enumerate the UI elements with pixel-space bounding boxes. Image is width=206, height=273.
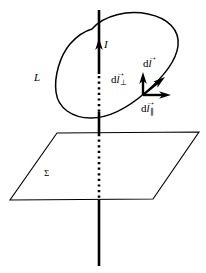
label-dl-perp-subscript: ⊥ <box>120 78 127 87</box>
plane-sigma <box>10 132 199 200</box>
vector-dl-total <box>143 82 159 95</box>
label-loop-L: L <box>34 72 40 83</box>
label-dl-parallel: d→l∥ <box>141 103 154 116</box>
label-dl-vector-l: →l <box>149 58 152 69</box>
label-dl-par-vector-l: →l <box>147 103 150 114</box>
closed-loop-L <box>56 13 179 118</box>
label-current-I: I <box>104 39 108 50</box>
diagram-canvas <box>0 0 206 273</box>
label-dl-total: d→l <box>143 58 152 69</box>
label-dl-par-subscript: ∥ <box>150 107 154 116</box>
physics-diagram-figure: I L Σ d→l⊥ d→l d→l∥ <box>0 0 206 273</box>
vector-overarrow-icon: → <box>116 68 126 78</box>
label-dl-perp-vector-l: →l <box>117 74 120 85</box>
label-surface-sigma: Σ <box>44 169 49 178</box>
vector-overarrow-icon: → <box>146 97 156 107</box>
vector-overarrow-icon: → <box>148 52 158 62</box>
label-dl-perpendicular: d→l⊥ <box>111 74 127 87</box>
